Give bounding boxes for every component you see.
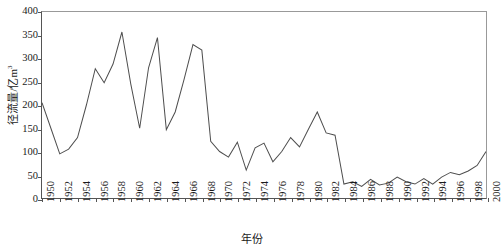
x-tick-label: 1958 [116, 181, 127, 202]
x-tick-label: 1998 [473, 181, 484, 202]
y-tick-label: 150 [12, 124, 38, 134]
x-tick-label: 1984 [348, 181, 359, 202]
y-axis-tick [38, 12, 42, 13]
x-tick-label: 1982 [330, 181, 341, 202]
x-tick-label: 1974 [259, 181, 270, 202]
x-tick-label: 1988 [384, 181, 395, 202]
y-tick-label: 200 [12, 100, 38, 110]
y-axis-tick [38, 130, 42, 131]
x-tick-label: 1962 [152, 181, 163, 202]
x-tick-label: 1996 [455, 181, 466, 202]
runoff-series-line [42, 12, 486, 198]
x-axis-title: 年份 [0, 232, 504, 246]
y-axis-tick [38, 36, 42, 37]
y-tick-label-group: 050100150200250300350400 [8, 0, 38, 252]
x-tick-label: 1986 [366, 181, 377, 202]
y-axis-tick [38, 177, 42, 178]
y-tick-label: 350 [12, 30, 38, 40]
y-tick-label: 0 [12, 194, 38, 204]
x-tick-label: 1964 [170, 181, 181, 202]
x-tick-label: 1960 [134, 181, 145, 202]
y-axis-tick [38, 83, 42, 84]
x-tick-label: 1970 [223, 181, 234, 202]
y-axis-tick [38, 153, 42, 154]
y-tick-label: 400 [12, 6, 38, 16]
x-tick-label: 1952 [63, 181, 74, 202]
y-tick-label: 300 [12, 53, 38, 63]
x-tick-label: 1954 [81, 181, 92, 202]
x-tick-label: 1990 [402, 181, 413, 202]
y-axis-tick [38, 106, 42, 107]
runoff-line-chart: 径流量/亿m3 050100150200250300350400 1950195… [0, 0, 504, 252]
x-tick-label: 1976 [277, 181, 288, 202]
series-polyline [42, 32, 486, 186]
x-axis-tick [488, 198, 489, 202]
y-tick-label: 50 [12, 171, 38, 181]
x-tick-label: 1956 [99, 181, 110, 202]
y-tick-label: 100 [12, 147, 38, 157]
plot-area [41, 11, 487, 199]
y-axis-tick [38, 59, 42, 60]
y-tick-label: 250 [12, 77, 38, 87]
x-tick-label: 1992 [420, 181, 431, 202]
x-tick-label: 1966 [188, 181, 199, 202]
x-tick-label: 2000 [491, 181, 502, 202]
x-tick-label: 1978 [295, 181, 306, 202]
x-tick-label: 1994 [437, 181, 448, 202]
x-tick-label: 1972 [241, 181, 252, 202]
x-tick-label: 1968 [206, 181, 217, 202]
x-tick-label: 1950 [45, 181, 56, 202]
x-tick-label: 1980 [313, 181, 324, 202]
